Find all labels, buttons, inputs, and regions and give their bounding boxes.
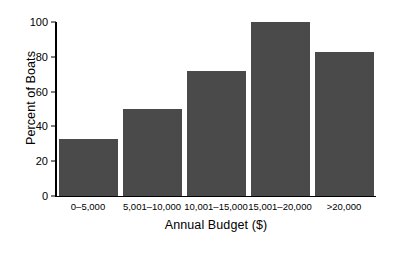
bar [59,139,118,196]
y-tick-label: 20 [20,156,48,167]
y-tick-label: 60 [20,86,48,97]
y-tick-label: 80 [20,51,48,62]
bar [315,52,374,196]
x-tick-label: 10,001–15,000 [184,201,248,212]
x-tick-label: >20,000 [312,201,376,212]
bar-chart-figure: Percent of Boats 020406080100 0–5,0005,0… [0,0,394,256]
y-axis-tick-labels: 020406080100 [20,0,48,256]
bar [123,109,182,196]
x-axis-tick-labels: 0–5,0005,001–10,00010,001–15,00015,001–2… [56,201,376,217]
x-tick-label: 0–5,000 [56,201,120,212]
y-tick-label: 0 [20,191,48,202]
bar [251,22,310,196]
y-tick-label: 40 [20,121,48,132]
x-tick-label: 15,001–20,000 [248,201,312,212]
plot-area [56,22,376,196]
y-tick-label: 100 [20,17,48,28]
x-tick-label: 5,001–10,000 [120,201,184,212]
x-axis-title: Annual Budget ($) [56,218,376,232]
bar [187,71,246,196]
